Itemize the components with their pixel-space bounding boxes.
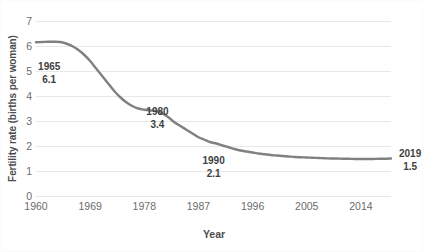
annotation-value: 3.4	[146, 118, 168, 131]
y-axis-tick-label: 7	[2, 16, 32, 27]
y-axis-tick-label: 2	[2, 141, 32, 152]
x-axis-tick-label: 1960	[11, 201, 61, 212]
annotation-year: 1980	[146, 105, 168, 118]
x-axis-tick-label: 1969	[65, 201, 115, 212]
data-point-annotation: 20191.5	[399, 147, 421, 173]
fertility-rate-series-line	[36, 42, 391, 159]
annotation-year: 2019	[399, 147, 421, 160]
y-axis-tick-label: 3	[2, 116, 32, 127]
x-axis-tick-label: 2014	[336, 201, 386, 212]
x-axis-tick-label: 1987	[173, 201, 223, 212]
x-axis-tick-label: 1978	[119, 201, 169, 212]
y-axis-tick-label: 6	[2, 41, 32, 52]
fertility-rate-line-chart: Fertility rate (births per woman) 012345…	[0, 0, 423, 252]
annotation-value: 1.5	[399, 160, 421, 173]
annotation-year: 1990	[203, 154, 225, 167]
data-point-annotation: 19803.4	[146, 105, 168, 131]
annotation-value: 6.1	[38, 73, 60, 86]
x-axis-tick-label: 2005	[282, 201, 332, 212]
data-point-annotation: 19902.1	[203, 154, 225, 180]
y-axis-tick-label: 1	[2, 166, 32, 177]
y-axis-tick-label: 4	[2, 91, 32, 102]
annotation-year: 1965	[38, 60, 60, 73]
data-point-annotation: 19656.1	[38, 60, 60, 86]
y-axis-tick-labels: 01234567	[2, 21, 32, 196]
y-axis-tick-label: 5	[2, 66, 32, 77]
x-axis-tick-label: 1996	[228, 201, 278, 212]
x-axis-title: Year	[36, 228, 392, 240]
x-axis-tick-labels: 1960196919781987199620052014	[36, 201, 391, 217]
annotation-value: 2.1	[203, 167, 225, 180]
